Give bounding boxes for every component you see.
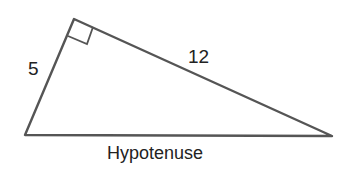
hypotenuse-label: Hypotenuse (107, 143, 203, 164)
long-leg-label: 12 (188, 46, 209, 68)
right-angle-marker (68, 27, 93, 44)
short-leg-label: 5 (28, 58, 39, 80)
